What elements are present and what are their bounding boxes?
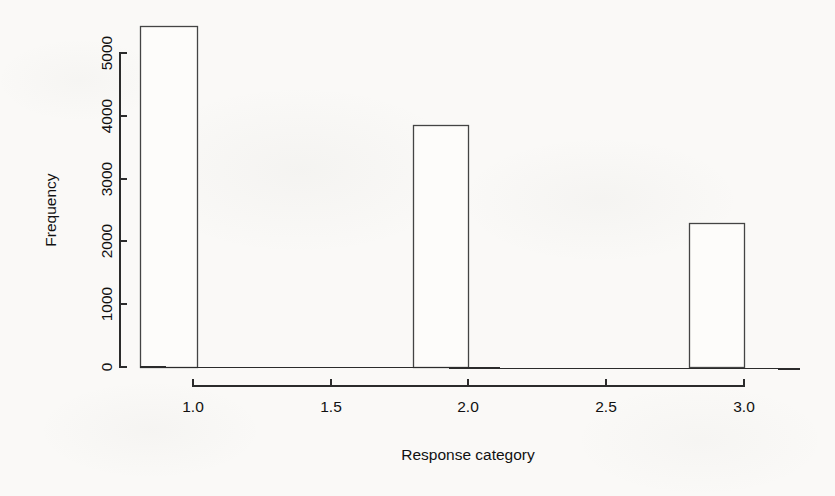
x-axis: 1.0 1.5 2.0 2.5 3.0 Response category	[182, 379, 755, 463]
y-axis-title: Frequency	[42, 173, 59, 246]
x-tick-label-2-5: 2.5	[595, 398, 617, 415]
chart-canvas: 0 1000 2000 3000 4000 5000 Frequency 1.0…	[0, 0, 835, 496]
x-tick-label-3-0: 3.0	[733, 398, 755, 415]
y-tick-label-5000: 5000	[98, 35, 115, 70]
x-tick-label-1-5: 1.5	[320, 398, 342, 415]
y-tick-label-2000: 2000	[98, 223, 115, 258]
bars-group	[141, 27, 745, 368]
bar-category-2	[414, 126, 469, 368]
y-tick-label-3000: 3000	[98, 161, 115, 196]
y-tick-label-1000: 1000	[98, 286, 115, 321]
x-tick-label-2-0: 2.0	[457, 398, 479, 415]
y-axis-line	[120, 53, 127, 367]
x-tick-label-1-0: 1.0	[182, 398, 204, 415]
histogram-figure: 0 1000 2000 3000 4000 5000 Frequency 1.0…	[0, 0, 835, 496]
y-axis: 0 1000 2000 3000 4000 5000 Frequency	[42, 35, 127, 371]
x-axis-title: Response category	[401, 446, 535, 463]
bar-category-3	[690, 224, 745, 368]
y-tick-label-4000: 4000	[98, 98, 115, 133]
bar-category-1	[141, 27, 198, 368]
y-tick-label-0: 0	[98, 362, 115, 371]
